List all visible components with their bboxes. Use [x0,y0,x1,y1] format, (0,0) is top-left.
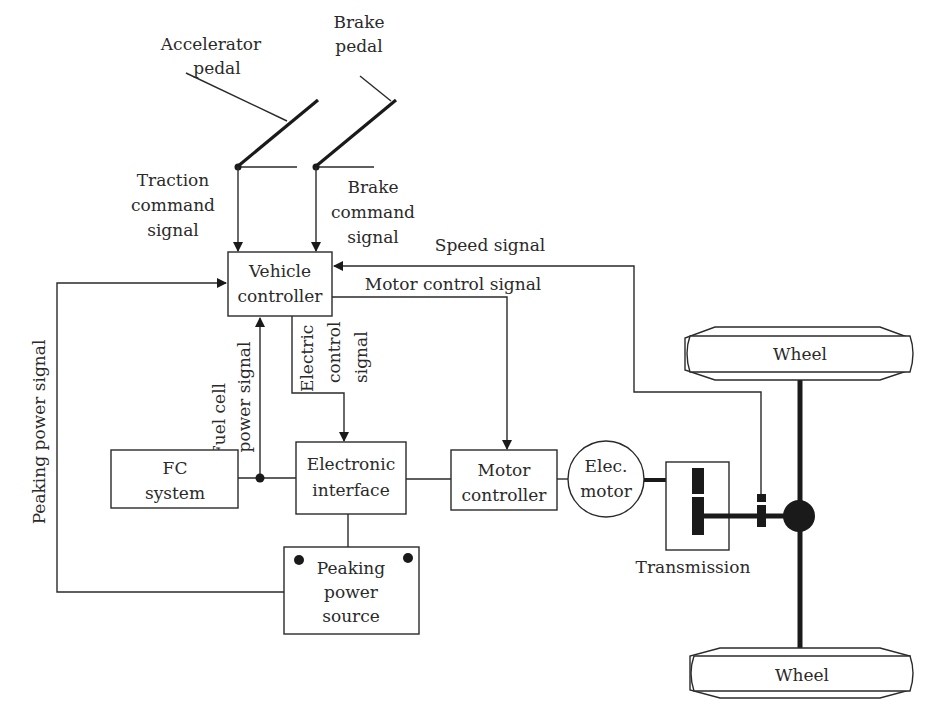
svg-text:Electronic: Electronic [307,454,396,474]
speed-signal-label: Speed signal [435,235,546,255]
brake-command-label: Brake command signal [331,177,415,247]
vehicle-controller-block: Vehicle controller [228,252,332,316]
traction-command-label: Traction command signal [131,170,215,240]
svg-text:Brake: Brake [347,177,398,197]
brake-label-1: Brake [333,12,384,32]
fchev-diagram: Accelerator pedal Brake pedal Traction c… [0,0,945,724]
accelerator-leader-line [186,73,287,121]
svg-text:Elec.: Elec. [585,456,628,476]
wheel-bottom-label: Wheel [775,665,829,685]
svg-text:power signal: power signal [234,342,254,453]
brake-pedal: Brake pedal [313,12,397,171]
svg-text:Traction: Traction [137,170,210,190]
svg-text:interface: interface [312,480,389,500]
svg-text:controller: controller [238,286,324,306]
svg-text:source: source [322,606,380,626]
electric-control-signal-label: Electric control signal [297,322,371,392]
svg-text:signal: signal [347,227,399,247]
brake-pedal-arm [315,100,396,167]
peaking-power-source-block: Peaking power source [284,547,419,634]
brake-label-2: pedal [335,36,382,56]
svg-text:motor: motor [580,481,632,501]
terminal-positive-icon [403,553,413,563]
svg-text:control: control [324,322,344,383]
svg-text:Vehicle: Vehicle [248,261,311,281]
junction-dot-icon [256,474,265,483]
svg-text:Fuel cell: Fuel cell [209,383,229,457]
accelerator-label-2: pedal [193,58,240,78]
shaft-coupling-icon [757,505,766,527]
svg-text:Motor: Motor [478,460,532,480]
svg-text:signal: signal [351,331,371,383]
wheel-top-label: Wheel [773,344,827,364]
svg-text:system: system [145,483,205,503]
svg-text:Electric: Electric [297,325,317,392]
brake-leader-line [360,76,391,101]
electric-motor-block: Elec. motor [568,441,644,517]
differential-icon [783,500,815,532]
fuel-cell-power-signal-label: Fuel cell power signal [209,342,254,457]
svg-text:command: command [131,195,215,215]
wheel-top: Wheel [685,327,913,380]
wheel-bottom: Wheel [690,648,913,698]
gear-upper-icon [692,468,704,494]
electronic-interface-block: Electronic interface [296,442,406,514]
svg-text:FC: FC [163,458,188,478]
accelerator-pedal-arm [237,100,318,167]
peaking-power-signal-label: Peaking power signal [29,340,49,525]
diagram-canvas: Accelerator pedal Brake pedal Traction c… [0,0,945,724]
transmission-label: Transmission [636,557,751,577]
speed-sensor-icon [757,494,766,502]
fc-system-block: FC system [111,450,238,508]
accelerator-pedal: Accelerator pedal [160,34,318,171]
accelerator-label-1: Accelerator [160,34,262,54]
terminal-negative-icon [294,555,304,565]
svg-text:power: power [324,582,379,602]
svg-text:command: command [331,202,415,222]
motor-control-signal-label: Motor control signal [365,274,542,294]
motor-controller-block: Motor controller [451,450,557,510]
svg-text:controller: controller [462,485,548,505]
svg-text:signal: signal [147,220,199,240]
svg-text:Peaking: Peaking [317,558,386,578]
